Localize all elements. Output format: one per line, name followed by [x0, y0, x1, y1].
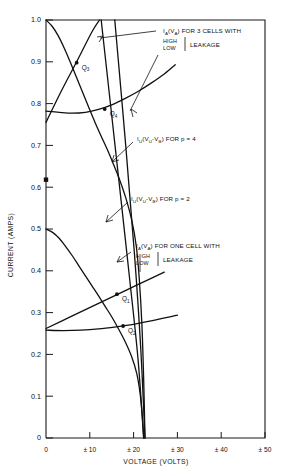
y-tick-label: 0.4: [31, 266, 41, 275]
annotation-p4: IU(VU-VB) FOR p = 4: [137, 135, 196, 144]
y-tick-label: 0.2: [31, 350, 41, 359]
y-tick-label: 1.0: [31, 15, 41, 24]
axis-markers: [44, 177, 48, 181]
y-tick-label: 0.5: [31, 224, 41, 233]
operating-point-label: Q4: [110, 110, 118, 119]
annotation-onecell: IA(VA) FOR ONE CELL WITH HIGH LOW LEAKAG…: [136, 242, 220, 266]
figure-container: 00.10.20.30.40.50.60.70.80.91.0 0± 10± 2…: [0, 0, 281, 471]
annotation-p2: IU(VU-VB) FOR p = 2: [131, 195, 190, 204]
x-axis-ticks: [90, 432, 265, 438]
x-tick-label: ± 50: [259, 446, 272, 453]
curve: [46, 20, 145, 438]
annotation-3cells-low: LOW: [163, 45, 176, 51]
annotation-p2-text: IU(VU-VB) FOR p = 2: [131, 195, 190, 204]
data-curves: [46, 20, 177, 438]
operating-point-dot: [103, 107, 107, 111]
annotation-texts: IA(VA) FOR 3 CELLS WITH HIGH LOW LEAKAGE…: [131, 27, 241, 266]
operating-point-label: Q1: [122, 295, 130, 304]
y-axis-tick-labels: 00.10.20.30.40.50.60.70.80.91.0: [31, 15, 41, 442]
annotation-p4-text: IU(VU-VB) FOR p = 4: [137, 135, 196, 144]
annotation-3cells-high: HIGH: [163, 38, 177, 44]
y-tick-label: 0: [37, 433, 41, 442]
x-tick-label: ± 10: [83, 446, 96, 453]
x-tick-label: 0: [44, 446, 48, 453]
annotation-3cells-leakage: LEAKAGE: [190, 41, 220, 48]
y-axis-title: CURRENT (AMPS): [7, 213, 15, 277]
operating-point-label: Q3: [82, 64, 90, 73]
operating-point-labels: Q3Q4Q1Q2: [75, 61, 136, 336]
operating-point-dot: [75, 61, 79, 65]
y-tick-label: 0.8: [31, 99, 41, 108]
y-tick-label: 0.6: [31, 183, 41, 192]
operating-point-dot: [121, 324, 125, 328]
operating-point-dot: [115, 292, 119, 296]
x-tick-label: ± 40: [215, 446, 228, 453]
annotation-onecell-leakage: LEAKAGE: [163, 256, 193, 263]
curve: [46, 20, 99, 122]
annotation-onecell-high: HIGH: [136, 253, 150, 259]
annotation-3cells: IA(VA) FOR 3 CELLS WITH HIGH LOW LEAKAGE: [163, 27, 241, 51]
x-tick-label: ± 20: [127, 446, 140, 453]
curve: [46, 272, 164, 328]
x-axis-tick-labels: 0± 10± 20± 30± 40± 50: [44, 446, 272, 453]
y-tick-label: 0.7: [31, 141, 41, 150]
annotation-onecell-low: LOW: [136, 260, 149, 266]
iv-characteristic-chart: 00.10.20.30.40.50.60.70.80.91.0 0± 10± 2…: [0, 0, 281, 471]
x-axis-title: VOLTAGE (VOLTS): [123, 458, 188, 466]
y-tick-label: 0.1: [31, 392, 41, 401]
curve: [115, 20, 145, 438]
y-axis-dot: [44, 177, 48, 181]
annotation-3cells-line1: IA(VA) FOR 3 CELLS WITH: [163, 27, 241, 36]
x-tick-label: ± 30: [171, 446, 184, 453]
y-tick-label: 0.3: [31, 308, 41, 317]
y-tick-label: 0.9: [31, 57, 41, 66]
annotation-onecell-line1: IA(VA) FOR ONE CELL WITH: [136, 242, 220, 251]
